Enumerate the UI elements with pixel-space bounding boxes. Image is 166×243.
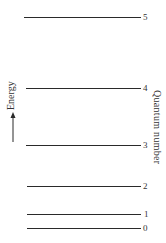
- energy-axis-label: Energy: [6, 81, 16, 110]
- level-label-5: 5: [143, 13, 148, 22]
- energy-level-diagram: Energy Quantum number 5 4 3 2 1 0: [0, 0, 166, 243]
- energy-level-0: [27, 228, 141, 229]
- energy-level-1: [27, 214, 141, 215]
- level-label-2: 2: [143, 182, 148, 191]
- level-label-3: 3: [143, 141, 148, 150]
- energy-level-4: [26, 88, 141, 89]
- level-label-0: 0: [143, 224, 148, 233]
- energy-level-5: [24, 17, 141, 18]
- level-label-4: 4: [143, 84, 148, 93]
- up-arrow-icon: [9, 112, 17, 142]
- energy-level-2: [27, 186, 141, 187]
- level-label-1: 1: [144, 210, 149, 219]
- energy-level-3: [26, 145, 141, 146]
- quantum-number-axis-label: Quantum number: [152, 90, 162, 164]
